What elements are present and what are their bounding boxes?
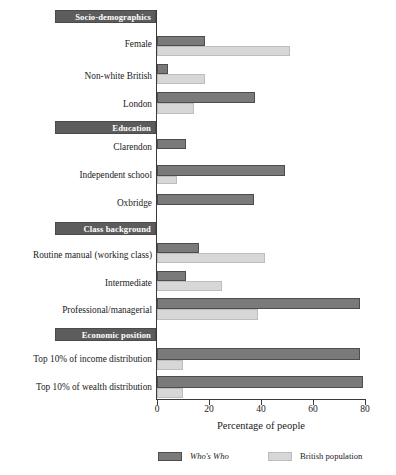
section-header-education: Education	[55, 121, 156, 134]
bar-top-wealth-british-population	[157, 388, 183, 398]
category-label-female: Female	[125, 39, 156, 49]
bar-top-income-whos-who	[157, 348, 360, 360]
x-tick-label-20: 20	[204, 404, 214, 414]
legend-item-whos-who: Who's Who	[158, 449, 229, 463]
bar-independent-school-british-population	[157, 176, 177, 184]
section-header-class-background: Class background	[55, 222, 156, 235]
bar-top-wealth-whos-who	[157, 376, 363, 388]
category-label-top-wealth: Top 10% of wealth distribution	[36, 382, 156, 392]
bar-female-british-population	[157, 46, 290, 56]
bar-female-whos-who	[157, 36, 205, 46]
grouped-bar-chart: Socio-demographics Female Non-white Brit…	[0, 0, 396, 475]
category-label-non-white-british: Non-white British	[85, 71, 156, 81]
x-tick-label-60: 60	[308, 404, 318, 414]
x-tick-label-40: 40	[256, 404, 266, 414]
legend-item-british-population: British population	[268, 449, 362, 463]
bar-oxbridge-whos-who	[157, 194, 254, 205]
bar-routine-manual-whos-who	[157, 243, 199, 253]
category-label-top-income: Top 10% of income distribution	[33, 354, 156, 364]
legend-label-whos-who: Who's Who	[190, 451, 229, 461]
category-label-independent-school: Independent school	[79, 170, 156, 180]
bar-top-income-british-population	[157, 360, 183, 370]
legend-label-british-population: British population	[300, 451, 362, 461]
category-label-intermediate: Intermediate	[105, 278, 156, 288]
bar-non-white-british-whos-who	[157, 64, 168, 74]
section-header-economic-position: Economic position	[55, 328, 156, 341]
legend-swatch-whos-who	[158, 452, 182, 461]
bar-intermediate-british-population	[157, 281, 222, 291]
category-label-routine-manual: Routine manual (working class)	[33, 250, 156, 260]
x-tick-label-0: 0	[155, 404, 160, 414]
legend-swatch-british-population	[268, 452, 292, 461]
bar-london-british-population	[157, 103, 194, 114]
bar-independent-school-whos-who	[157, 165, 285, 176]
bar-routine-manual-british-population	[157, 253, 265, 263]
chart-legend: Who's Who British population	[0, 449, 396, 465]
bar-intermediate-whos-who	[157, 271, 186, 281]
section-header-socio-demographics: Socio-demographics	[55, 10, 156, 23]
bar-professional-managerial-whos-who	[157, 298, 360, 309]
category-label-london: London	[123, 99, 156, 109]
category-label-professional-managerial: Professional/managerial	[62, 305, 156, 315]
category-label-clarendon: Clarendon	[113, 142, 156, 152]
bar-professional-managerial-british-population	[157, 309, 258, 320]
plot-area: Socio-demographics Female Non-white Brit…	[0, 0, 396, 475]
bar-non-white-british-british-population	[157, 74, 205, 84]
x-tick-label-80: 80	[360, 404, 370, 414]
y-axis-line	[156, 10, 157, 400]
x-axis-title: Percentage of people	[156, 420, 366, 431]
category-label-oxbridge: Oxbridge	[117, 198, 156, 208]
bar-clarendon-whos-who	[157, 139, 186, 149]
bar-london-whos-who	[157, 92, 255, 103]
